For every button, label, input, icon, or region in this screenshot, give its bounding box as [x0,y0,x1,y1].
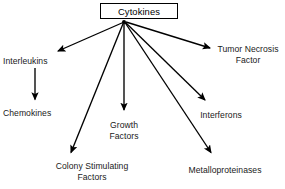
node-colony-stimulating-factors-line-2: Factors [38,172,146,183]
node-metalloproteinases-line-1: Metalloproteinases [170,165,280,176]
diagram-canvas: Cytokines Interleukins Chemokines Colony… [0,0,285,189]
hub-junction-dot [122,20,126,24]
node-tumor-necrosis-factor[interactable]: Tumor Necrosis Factor [212,44,284,65]
node-chemokines[interactable]: Chemokines [3,108,51,119]
node-growth-factors-line-2: Factors [96,131,152,142]
node-growth-factors[interactable]: Growth Factors [96,120,152,141]
root-node-label: Cytokines [118,6,160,17]
node-colony-stimulating-factors[interactable]: Colony Stimulating Factors [38,161,146,182]
node-interferons[interactable]: Interferons [186,110,256,121]
node-tumor-necrosis-factor-line-2: Factor [212,55,284,66]
node-interleukins-line-1: Interleukins [3,56,48,67]
node-growth-factors-line-1: Growth [96,120,152,131]
node-tumor-necrosis-factor-line-1: Tumor Necrosis [212,44,284,55]
node-chemokines-line-1: Chemokines [3,108,51,119]
node-interferons-line-1: Interferons [186,110,256,121]
node-interleukins[interactable]: Interleukins [3,56,48,67]
node-metalloproteinases[interactable]: Metalloproteinases [170,165,280,176]
node-colony-stimulating-factors-line-1: Colony Stimulating [38,161,146,172]
root-node-cytokines[interactable]: Cytokines [100,3,178,19]
